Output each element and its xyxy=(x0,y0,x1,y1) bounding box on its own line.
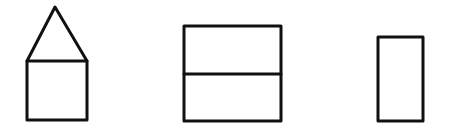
house-roof-triangle xyxy=(27,7,87,61)
tall-rectangle xyxy=(378,37,423,121)
split-rectangle-shape xyxy=(184,26,281,121)
house-body-square xyxy=(27,61,87,120)
tall-rectangle-shape xyxy=(378,37,423,121)
shapes-drawing xyxy=(0,0,450,131)
house-shape xyxy=(27,7,87,120)
diagram-canvas xyxy=(0,0,450,131)
